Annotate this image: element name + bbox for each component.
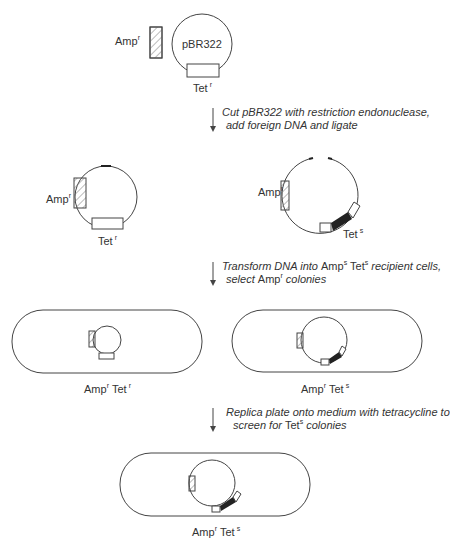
cell-amp-r-tet-s: AmprTets — [232, 310, 422, 395]
plasmid-circle — [93, 326, 121, 354]
step-1-line-2: add foreign DNA and ligate — [226, 119, 358, 131]
step-1: Cut pBR322 with restriction endonuclease… — [210, 106, 430, 132]
amp-label: Ampr — [115, 34, 141, 47]
amp-gene-box — [189, 476, 195, 491]
cell-genotype-label: AmprTetr — [84, 382, 132, 395]
tet-label: Tetr — [98, 234, 118, 247]
tet-gene-fragment-left — [320, 223, 331, 232]
recombinant-plasmid: Ampr Tets — [258, 158, 364, 240]
cell-final-amp-r-tet-s: AmprTets — [120, 453, 310, 538]
step-2-line-2: select Ampr colonies — [226, 272, 327, 285]
step-3: Replica plate onto medium with tetracycl… — [210, 406, 450, 432]
tet-gene-box — [187, 64, 219, 77]
step-1-line-1: Cut pBR322 with restriction endonuclease… — [222, 106, 430, 118]
plasmid-circle — [189, 460, 235, 506]
cell-genotype-label: AmprTets — [192, 525, 241, 538]
bacterial-cell — [12, 310, 202, 373]
cloning-diagram: Ampr pBR322 Tetr Cut pBR322 with restric… — [0, 0, 450, 549]
step-2: Transform DNA into Amps Tets recipient c… — [210, 259, 441, 286]
amp-gene-box — [297, 333, 303, 348]
tet-label: Tets — [343, 227, 364, 240]
step-3-line-1: Replica plate onto medium with tetracycl… — [226, 406, 450, 418]
amp-label: Ampr — [258, 185, 284, 198]
cell-genotype-label: AmprTets — [301, 382, 350, 395]
pbr322-plasmid: Ampr pBR322 Tetr — [115, 14, 232, 94]
tet-gene-fragment-left — [321, 359, 329, 365]
tet-label: Tetr — [193, 81, 213, 94]
tet-gene-box — [99, 353, 114, 359]
recircularized-plasmid: Ampr Tetr — [46, 166, 137, 247]
step-2-line-1: Transform DNA into Amps Tets recipient c… — [222, 259, 441, 272]
amp-label: Ampr — [46, 192, 72, 205]
amp-gene-box — [74, 178, 86, 208]
tet-gene-fragment-left — [212, 506, 220, 512]
step-3-line-2: screen for Tets colonies — [233, 418, 347, 431]
cell-amp-r-tet-r: AmprTetr — [12, 310, 202, 395]
tet-gene-box — [92, 218, 123, 229]
plasmid-name: pBR322 — [182, 38, 222, 50]
amp-gene-box — [89, 331, 95, 347]
